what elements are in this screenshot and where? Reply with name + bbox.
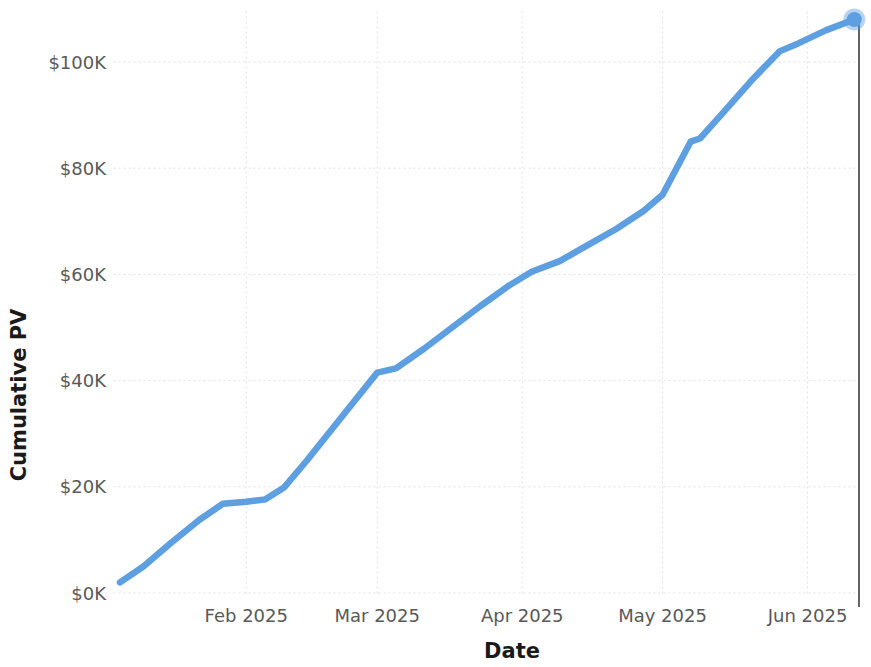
y-axis-tick-label: $80K <box>60 158 107 179</box>
x-axis-tick-label: Feb 2025 <box>205 605 288 626</box>
series-endpoint-marker[interactable] <box>847 12 862 27</box>
y-axis-tick-label: $60K <box>60 264 107 285</box>
y-axis-tick-label: $0K <box>71 583 107 604</box>
y-axis-tick-label: $100K <box>48 52 107 73</box>
x-axis-tick-label: Mar 2025 <box>334 605 420 626</box>
x-axis-title: Date <box>484 639 540 663</box>
line-chart: $0K$20K$40K$60K$80K$100K Feb 2025Mar 202… <box>0 0 871 667</box>
y-axis-tick-label: $20K <box>60 476 107 497</box>
x-axis-tick-label: May 2025 <box>618 605 707 626</box>
x-axis-tick-label: Apr 2025 <box>481 605 564 626</box>
x-axis-tick-label: Jun 2025 <box>767 605 848 626</box>
y-axis-tick-label: $40K <box>60 370 107 391</box>
chart-background <box>0 0 871 667</box>
y-axis-title: Cumulative PV <box>7 308 31 481</box>
chart-container: $0K$20K$40K$60K$80K$100K Feb 2025Mar 202… <box>0 0 871 667</box>
